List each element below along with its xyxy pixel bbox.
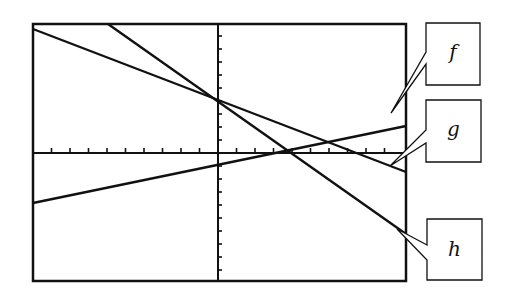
label-h: h <box>427 237 482 261</box>
label-f: f <box>426 40 480 64</box>
line-h <box>108 24 406 234</box>
label-g: g <box>426 117 481 141</box>
